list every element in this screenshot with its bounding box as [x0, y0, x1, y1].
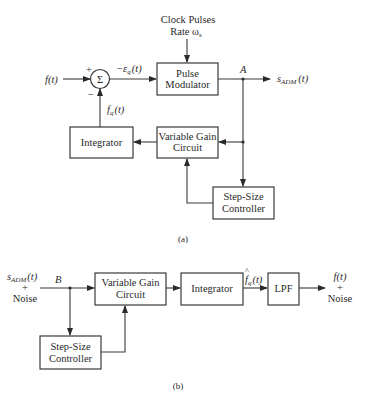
minus-sign: −: [88, 89, 94, 100]
vgc-b-label-1: Variable Gain: [101, 277, 160, 288]
step-size-a-label-2: Controller: [222, 203, 266, 214]
sigma-symbol: Σ: [97, 74, 103, 85]
diagram-a-encoder: Clock Pulses Rate ωs f(t) Σ + − −εq(t) P…: [45, 14, 309, 244]
step-size-b-label-2: Controller: [49, 353, 93, 364]
caption-a: (a): [178, 234, 188, 244]
vgc-a-label-2: Circuit: [173, 142, 202, 153]
error-label: −εq(t): [116, 63, 142, 76]
step-size-to-vgc-arrow: [187, 159, 213, 203]
clock-pulses-label: Clock Pulses: [161, 14, 216, 25]
output-plus: +: [337, 282, 343, 293]
caption-b: (b): [173, 381, 184, 391]
adm-block-diagram: Clock Pulses Rate ωs f(t) Σ + − −εq(t) P…: [0, 0, 369, 404]
feedback-fq-label: fq(t): [107, 104, 125, 117]
vgc-b-label-2: Circuit: [116, 289, 145, 300]
clock-rate-label: Rate ωs: [170, 26, 202, 39]
vgc-a-label-1: Variable Gain: [158, 131, 217, 142]
step-size-to-vgc-arrow-b: [101, 306, 125, 352]
output-s-adm-label: sADM(t): [277, 73, 309, 86]
step-size-b-label-1: Step-Size: [50, 341, 91, 352]
output-noise: Noise: [328, 293, 353, 304]
pulse-modulator-label-1: Pulse: [176, 68, 199, 79]
lpf-label: LPF: [274, 283, 292, 294]
integrator-a-label: Integrator: [81, 137, 123, 148]
input-noise: Noise: [13, 293, 38, 304]
diagram-b-decoder: sADM(t) + Noise B Variable Gain Circuit …: [7, 267, 353, 391]
input-plus: +: [22, 282, 28, 293]
step-size-a-label-1: Step-Size: [223, 191, 264, 202]
node-a-label: A: [239, 64, 247, 75]
hat-accent: ^: [245, 267, 249, 276]
plus-sign: +: [86, 64, 92, 75]
node-b-label: B: [55, 274, 62, 285]
integrator-b-label: Integrator: [191, 283, 233, 294]
pulse-modulator-label-2: Modulator: [165, 79, 210, 90]
input-f-label: f(t): [45, 74, 58, 86]
